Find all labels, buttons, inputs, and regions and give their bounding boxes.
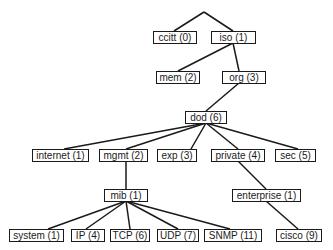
tree-edge <box>206 123 298 149</box>
tree-edge <box>86 201 126 229</box>
tree-edge <box>174 12 204 31</box>
node-enterprise: enterprise (1) <box>232 189 301 202</box>
node-ip: IP (4) <box>71 229 105 242</box>
tree-edge <box>126 201 130 229</box>
node-org: org (3) <box>222 71 266 84</box>
tree-edge <box>266 201 298 229</box>
node-mib: mib (1) <box>104 189 148 202</box>
node-mem: mem (2) <box>156 71 200 84</box>
node-internet: internet (1) <box>32 149 89 162</box>
node-private: private (4) <box>211 149 265 162</box>
node-snmp: SNMP (11) <box>204 229 262 242</box>
tree-edge <box>204 12 233 31</box>
tree-edge <box>64 123 206 149</box>
node-iso: iso (1) <box>211 31 256 44</box>
tree-edge <box>126 201 230 229</box>
tree-edge <box>48 201 126 229</box>
tree-edge <box>206 83 239 111</box>
node-dod: dod (6) <box>185 111 227 124</box>
tree-edge <box>238 161 266 189</box>
node-exp: exp (3) <box>157 149 197 162</box>
node-sec: sec (5) <box>275 149 316 162</box>
node-system: system (1) <box>9 229 64 242</box>
node-mgmt: mgmt (2) <box>99 149 148 162</box>
node-cisco: cisco (9) <box>276 229 322 242</box>
tree-edge <box>178 43 233 71</box>
node-udp: UDP (7) <box>157 229 199 242</box>
tree-edge <box>233 43 239 71</box>
node-ccitt: ccitt (0) <box>153 31 197 44</box>
tree-edge <box>126 201 178 229</box>
node-tcp: TCP (6) <box>110 229 150 242</box>
